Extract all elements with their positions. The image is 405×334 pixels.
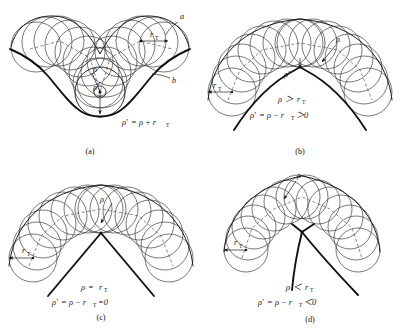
panel-b-caption: (b) — [295, 147, 305, 156]
panel-a-formula-rhs: ρ + r — [138, 118, 157, 127]
panel-d-formula2-lhs: ρ′ — [257, 298, 264, 307]
panel-b-rho-prime-label: ρ′ — [283, 70, 290, 79]
panel-c-formula1-lhs: ρ — [80, 283, 85, 292]
panel-c-rt-sub: T — [27, 251, 31, 257]
panel-a-center-dot — [99, 91, 102, 94]
panel-b-formula2-tail: ＞0 — [296, 111, 309, 120]
panel-b-formula1-sub: T — [302, 99, 306, 105]
panel-b-formula2-rhs: ρ − r — [266, 111, 285, 120]
panel-b-formula2-lhs: ρ′ — [249, 111, 256, 120]
panel-c-formula1-op: = — [88, 283, 94, 292]
panel-c-formula2-tail: =0 — [98, 298, 109, 307]
panel-d-formula1-op: ＜ — [293, 283, 302, 292]
panel-d-formula1-sub: T — [310, 287, 314, 293]
panel-c-rt-origin-dot — [32, 257, 34, 259]
panel-b-cusp-dot — [299, 66, 302, 69]
panel-d-rt-sub: T — [239, 243, 243, 249]
panel-a-rt-origin-dot — [140, 40, 142, 42]
panel-a-formula-op: = — [131, 118, 137, 127]
figure-canvas: a b r T ρ ρ′ ρ′ = ρ + r T (a) — [0, 0, 405, 334]
panel-d-rt-origin-dot — [245, 249, 247, 251]
panel-b-rt-sub: T — [218, 86, 222, 92]
panel-a-label-a: a — [180, 12, 184, 21]
panel-c-rho-label: ρ — [99, 195, 104, 204]
panel-d-formula1-lhs: ρ — [285, 283, 290, 292]
panel-c-caption: (c) — [96, 313, 105, 322]
panel-d-formula2-rhs: ρ − r — [274, 298, 293, 307]
panel-a-label-b: b — [172, 76, 176, 85]
panel-c-formula2-sub: T — [93, 302, 97, 308]
panel-b-rt-origin-dot — [231, 91, 233, 93]
panel-c-formula1-sub: T — [104, 287, 108, 293]
panel-b-formula2-op: = — [259, 111, 265, 120]
panel-b-rho-label: ρ — [335, 35, 340, 44]
panel-d-formula2-op: = — [267, 298, 273, 307]
panel-c-formula2-rhs: ρ − r — [68, 298, 87, 307]
panel-a-formula-lhs: ρ′ — [121, 118, 128, 127]
panel-d-formula2-tail: ＜0 — [304, 298, 317, 307]
panel-c-formula2-lhs: ρ′ — [51, 298, 58, 307]
panel-a-rt-sub: T — [155, 35, 159, 41]
panel-a-formula-sub: T — [166, 122, 170, 128]
panel-c-degenerate-point — [100, 232, 103, 235]
panel-d-crossing-point — [301, 231, 304, 234]
panel-b-formula1-lhs: ρ — [277, 95, 282, 104]
panel-d-rho-label: ρ — [296, 171, 301, 180]
panel-d-caption: (d) — [305, 315, 315, 324]
panel-a-caption: (a) — [85, 147, 94, 156]
panel-a-rho-label: ρ — [92, 65, 97, 74]
panel-a-rho-prime-label: ρ′ — [92, 83, 99, 92]
panel-c-formula2-op: = — [61, 298, 67, 307]
panel-d-formula2-sub: T — [299, 302, 303, 308]
panel-b-formula2-sub: T — [291, 115, 295, 121]
panel-b-formula1-op: ＞ — [285, 95, 294, 104]
